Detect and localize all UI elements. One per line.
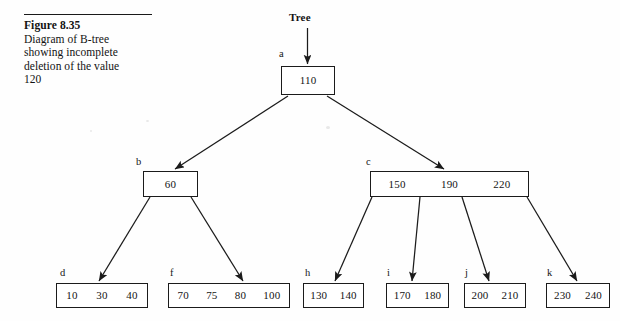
node-h-key-0: 130 [310, 290, 327, 301]
caption-line-1: Diagram of B-tree [24, 33, 156, 47]
node-d-key-1: 30 [96, 290, 107, 301]
node-f-key-0: 70 [178, 290, 189, 301]
node-k-key-1: 240 [585, 290, 602, 301]
caption-line-2: showing incomplete [24, 46, 156, 60]
node-f-key-1: 75 [206, 290, 217, 301]
scan-speck [90, 130, 92, 132]
caption-divider [24, 14, 152, 15]
node-c-key-1: 190 [441, 179, 458, 190]
tree-node-c[interactable]: 150 190 220 [370, 171, 529, 197]
scan-speck [326, 126, 330, 129]
tree-node-j[interactable]: 200 210 [464, 283, 526, 308]
node-j-key-0: 200 [471, 290, 488, 301]
node-label-j: j [465, 268, 468, 279]
node-d-key-2: 40 [126, 290, 137, 301]
node-i-key-0: 170 [394, 290, 411, 301]
tree-node-h[interactable]: 130 140 [303, 283, 364, 308]
node-label-h: h [305, 268, 310, 279]
tree-pointer-label: Tree [289, 11, 311, 23]
caption-line-4: 120 [24, 73, 156, 87]
tree-node-d[interactable]: 10 30 40 [56, 283, 148, 308]
node-a-key-0: 110 [300, 75, 317, 86]
node-c-key-2: 220 [493, 179, 510, 190]
scan-speck [146, 120, 149, 122]
tree-node-b[interactable]: 60 [143, 171, 198, 197]
node-label-c: c [366, 157, 371, 168]
node-label-i: i [387, 268, 390, 279]
tree-node-k[interactable]: 230 240 [546, 283, 610, 308]
node-label-b: b [136, 157, 141, 168]
node-b-key-0: 60 [165, 179, 176, 190]
node-label-d: d [60, 268, 65, 279]
node-j-key-1: 210 [501, 290, 518, 301]
node-f-key-3: 100 [263, 290, 280, 301]
tree-node-i[interactable]: 170 180 [386, 283, 449, 308]
tree-node-a[interactable]: 110 [281, 66, 335, 95]
figure-number: Figure 8.35 [24, 19, 156, 33]
node-c-key-0: 150 [389, 179, 406, 190]
caption-line-3: deletion of the value [24, 60, 156, 74]
node-label-f: f [170, 268, 174, 279]
node-label-a: a [279, 49, 284, 60]
node-k-key-0: 230 [554, 290, 571, 301]
node-label-k: k [547, 268, 552, 279]
figure-caption: Figure 8.35 Diagram of B-tree showing in… [24, 14, 156, 87]
tree-node-f[interactable]: 70 75 80 100 [168, 283, 290, 308]
figure-page: Figure 8.35 Diagram of B-tree showing in… [0, 0, 620, 321]
node-i-key-1: 180 [424, 290, 441, 301]
node-f-key-2: 80 [235, 290, 246, 301]
node-d-key-0: 10 [66, 290, 77, 301]
node-h-key-1: 140 [340, 290, 357, 301]
